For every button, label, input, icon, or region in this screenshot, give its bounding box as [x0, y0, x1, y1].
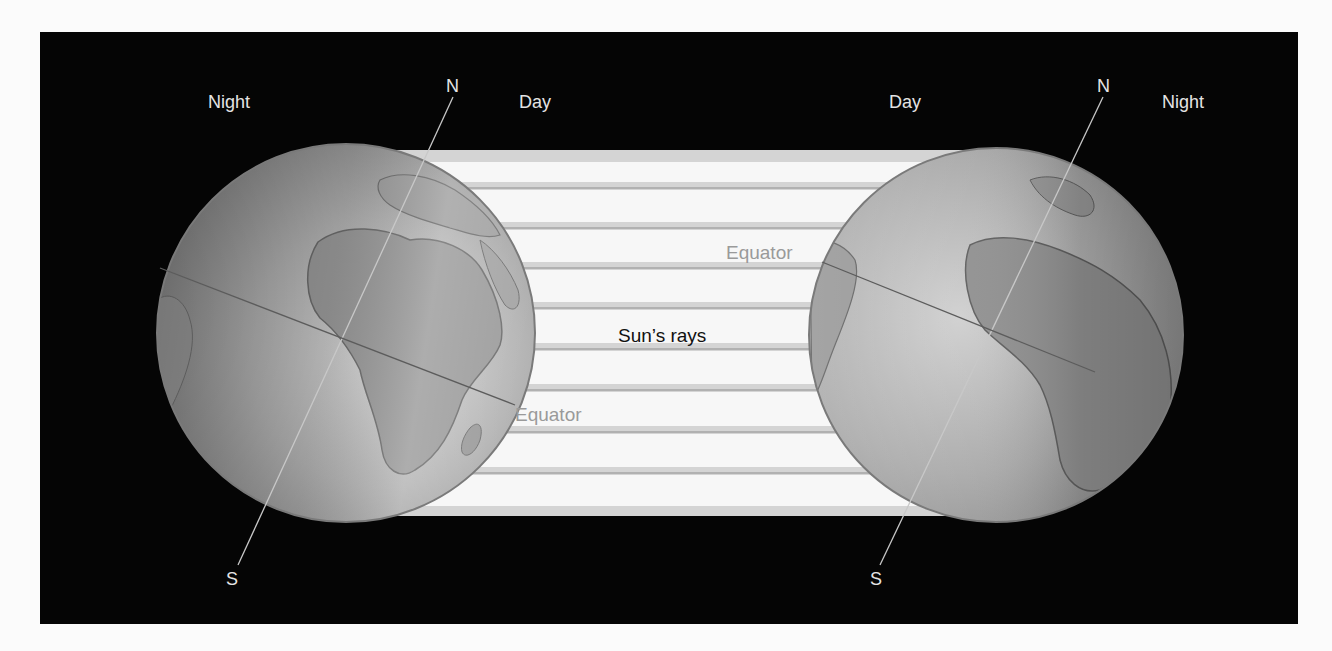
left-night-label: Night	[208, 93, 250, 111]
left-day-label: Day	[519, 93, 551, 111]
right-south-label: S	[870, 570, 882, 588]
right-north-label: N	[1097, 77, 1110, 95]
left-south-label: S	[226, 570, 238, 588]
left-equator-label: Equator	[515, 405, 582, 424]
right-day-label: Day	[889, 93, 921, 111]
sun-rays-label: Sun’s rays	[618, 326, 706, 345]
diagram-panel: Night N Day S Equator Day N Night S Equa…	[40, 32, 1298, 624]
right-night-label: Night	[1162, 93, 1204, 111]
right-equator-label: Equator	[726, 243, 793, 262]
left-north-label: N	[446, 77, 459, 95]
